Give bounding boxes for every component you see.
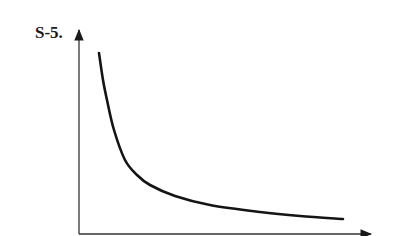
chart-canvas xyxy=(0,0,394,236)
decay-curve xyxy=(99,53,343,219)
